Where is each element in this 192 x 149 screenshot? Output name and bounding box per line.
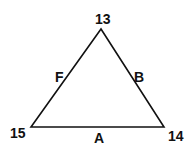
edge-label-left: F — [55, 70, 64, 84]
vertex-label-bottom-left: 15 — [10, 126, 26, 140]
vertex-label-top: 13 — [95, 12, 111, 26]
edge-label-right: B — [134, 70, 144, 84]
edge-label-bottom: A — [94, 131, 104, 145]
vertex-label-bottom-right: 14 — [168, 129, 184, 143]
